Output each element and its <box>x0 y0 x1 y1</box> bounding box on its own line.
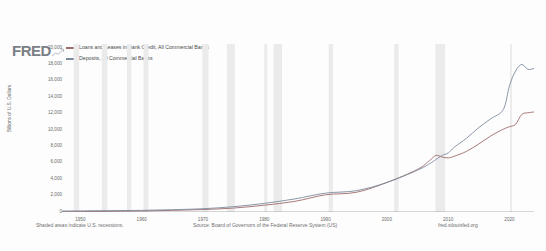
recession-band <box>329 44 333 212</box>
y-axis-ticks: 02,0004,0006,0008,00010,00012,00014,0001… <box>0 44 62 212</box>
footer-source: Source: Board of Governors of the Federa… <box>193 222 337 228</box>
y-tick-label: 16,000 <box>20 78 62 83</box>
y-tick-label: 0 <box>20 210 62 215</box>
recession-band <box>202 44 208 212</box>
recession-band <box>227 44 235 212</box>
y-tick-label: 4,000 <box>20 177 62 182</box>
y-tick-label: 10,000 <box>20 128 62 133</box>
recession-band <box>102 44 108 212</box>
y-tick-label: 18,000 <box>20 62 62 67</box>
y-tick-label: 6,000 <box>20 160 62 165</box>
plot-area: Billions of U.S. Dollars 02,0004,0006,00… <box>0 44 546 212</box>
recession-band <box>394 44 398 212</box>
recession-band <box>510 44 512 212</box>
y-tick-label: 12,000 <box>20 111 62 116</box>
y-tick-label: 8,000 <box>20 144 62 149</box>
series-line-deposits <box>62 64 534 211</box>
recession-band <box>264 44 267 212</box>
y-tick-label: 20,000 <box>20 46 62 51</box>
chart-canvas <box>62 44 534 212</box>
series-line-loans <box>62 112 534 212</box>
recession-band <box>144 44 149 212</box>
y-tick-label: 14,000 <box>20 95 62 100</box>
recession-band <box>127 44 131 212</box>
chart-footer: Shaded areas indicate U.S. recessions. S… <box>0 222 546 236</box>
footer-recession-note: Shaded areas indicate U.S. recessions. <box>36 222 124 228</box>
y-tick-label: 2,000 <box>20 193 62 198</box>
footer-url[interactable]: fred.stlouisfed.org <box>438 222 478 228</box>
fred-chart-widget: FRED Loans and Leases in Bank Credit, Al… <box>0 0 546 251</box>
recession-band <box>435 44 445 212</box>
chart-header: FRED Loans and Leases in Bank Credit, Al… <box>0 20 546 46</box>
recession-band <box>273 44 282 212</box>
recession-band <box>74 44 80 212</box>
